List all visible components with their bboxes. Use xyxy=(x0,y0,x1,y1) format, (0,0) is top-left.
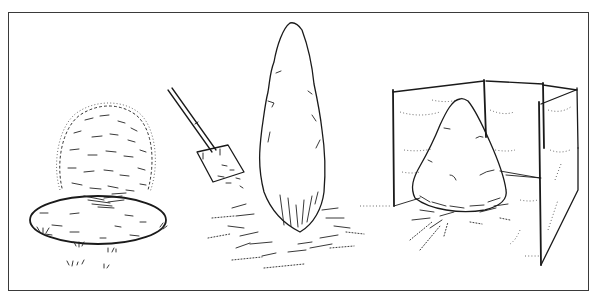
grass-tufts xyxy=(37,223,167,268)
columnar-mulch-pile xyxy=(228,204,350,256)
mulch-bed-ellipse xyxy=(30,196,166,244)
stake-far-right xyxy=(577,88,578,148)
round-shrub-outline xyxy=(57,103,156,192)
stake-back-right xyxy=(543,83,544,148)
columnar-tree-detail xyxy=(268,71,320,227)
conical-shrub-detail xyxy=(420,128,500,208)
mulch-texture xyxy=(40,213,146,238)
illustration-canvas xyxy=(0,0,606,300)
conical-shrub-outline xyxy=(413,99,507,212)
panel-windscreen xyxy=(360,80,578,265)
panel-columnar-mulch xyxy=(168,23,364,268)
shrub-texture xyxy=(68,115,146,191)
stake-front-right xyxy=(539,102,541,265)
stake-left xyxy=(393,90,394,206)
panel-mulch-circle xyxy=(30,103,167,268)
shovel xyxy=(168,88,244,188)
columnar-tree-outline xyxy=(260,23,325,232)
